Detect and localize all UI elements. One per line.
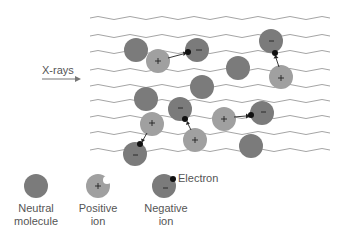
legend-electron [170,176,176,182]
legend-positive-line2: ion [72,215,124,228]
neutral-molecule [124,38,148,62]
legend-neutral-label: Neutral molecule [10,202,62,228]
legend-positive-label: Positive ion [72,202,124,228]
electron [185,49,191,55]
electron [248,112,254,118]
electron [182,116,188,122]
xrays-label: X-rays [42,64,74,76]
legend [24,174,176,198]
xray-arrow-icon [42,76,81,82]
legend-neutral-line2: molecule [10,215,62,228]
ion-pair [146,38,209,73]
electron [272,50,278,56]
ion-pair [123,112,164,166]
ion-pair [212,101,274,131]
legend-negative-ion [152,174,176,198]
negative-ion [250,101,274,125]
neutral-molecule [239,134,263,158]
neutral-molecule [134,87,158,111]
legend-positive-line1: Positive [72,202,124,215]
negative-ion [168,97,192,121]
legend-electron-label: Electron [178,172,218,184]
legend-negative-label: Negative ion [138,202,194,228]
ion-pair [259,29,293,89]
electron [137,141,143,147]
legend-negative-line2: ion [138,215,194,228]
neutral-molecule [226,56,250,80]
legend-neutral-molecule [24,174,48,198]
negative-ion [123,142,147,166]
legend-positive-ion [86,174,111,198]
ion-pair [168,97,207,152]
legend-neutral-line1: Neutral [10,202,62,215]
legend-negative-line1: Negative [138,202,194,215]
neutral-molecule [190,75,214,99]
